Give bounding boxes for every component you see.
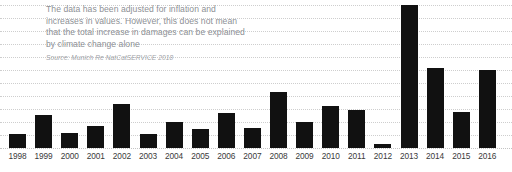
bar — [479, 70, 496, 148]
x-axis-label: 2011 — [344, 151, 370, 161]
bar — [9, 134, 26, 148]
bar — [374, 144, 391, 148]
x-axis-label: 2016 — [474, 151, 500, 161]
x-axis-label: 2015 — [448, 151, 474, 161]
x-axis-label: 2012 — [370, 151, 396, 161]
bar — [35, 115, 52, 148]
x-axis-label: 2009 — [292, 151, 318, 161]
bar — [453, 112, 470, 148]
annotation-text: The data has been adjusted for inflation… — [46, 4, 306, 50]
x-axis-label: 1998 — [5, 151, 31, 161]
x-axis-label: 2005 — [187, 151, 213, 161]
bar — [401, 5, 418, 148]
bar — [218, 113, 235, 148]
bar — [244, 128, 261, 148]
bar — [322, 106, 339, 148]
bar — [427, 68, 444, 148]
annotation-line: The data has been adjusted for inflation… — [46, 4, 306, 16]
x-axis-label: 2004 — [161, 151, 187, 161]
x-axis-label: 2014 — [422, 151, 448, 161]
bar — [166, 122, 183, 148]
x-axis-label: 2003 — [135, 151, 161, 161]
bar — [270, 92, 287, 148]
x-axis-label: 2001 — [83, 151, 109, 161]
chart-screenshot: 1998199920002001200220032004200520062007… — [0, 0, 512, 172]
bar — [296, 122, 313, 148]
bar — [192, 129, 209, 148]
bar — [348, 110, 365, 148]
x-axis-label: 2006 — [213, 151, 239, 161]
annotation-line: that the total increase in damages can b… — [46, 27, 306, 39]
x-axis-label: 2008 — [266, 151, 292, 161]
x-axis-label: 1999 — [31, 151, 57, 161]
annotation-line: increases in values. However, this does … — [46, 16, 306, 28]
bar — [140, 134, 157, 148]
bar — [113, 104, 130, 148]
annotation-line: by climate change alone — [46, 39, 306, 51]
bar — [87, 126, 104, 148]
source-caption: Source: Munich Re NatCatSERVICE 2018 — [46, 54, 173, 61]
x-axis-label: 2007 — [239, 151, 265, 161]
x-axis-label: 2013 — [396, 151, 422, 161]
x-axis-label: 2010 — [318, 151, 344, 161]
x-axis-label: 2002 — [109, 151, 135, 161]
x-axis-label: 2000 — [57, 151, 83, 161]
bar — [61, 133, 78, 148]
